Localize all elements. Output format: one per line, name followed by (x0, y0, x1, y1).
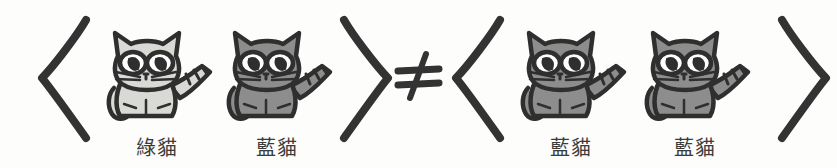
cat-label-3: 藍貓 (550, 138, 592, 158)
cat-label-1: 綠貓 (136, 138, 178, 158)
left-group-open-bracket (34, 14, 94, 144)
cat-label-4: 藍貓 (674, 138, 716, 158)
cat-figure-1 (98, 22, 216, 130)
right-ket-group: 藍貓 藍貓 (440, 0, 837, 168)
figure-canvas: 綠貓 藍貓 (0, 0, 837, 168)
right-group-open-bracket (448, 14, 508, 144)
not-equal-sign (392, 50, 446, 102)
cat-label-2: 藍貓 (256, 138, 298, 158)
right-group-close-bracket (774, 14, 834, 144)
cat-figure-4 (636, 22, 754, 130)
cat-figure-2 (218, 22, 336, 130)
left-group-close-bracket (336, 14, 396, 144)
cat-figure-3 (512, 22, 630, 130)
left-ket-group: 綠貓 藍貓 (0, 0, 395, 168)
